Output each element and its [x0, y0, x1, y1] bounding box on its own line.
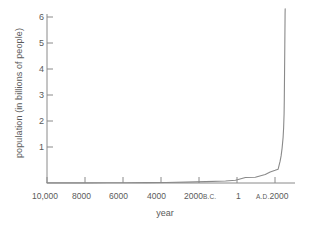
y-tick-label-6: 6: [28, 13, 44, 22]
era-label-bc: B.C.: [203, 193, 216, 200]
population-growth-chart: population (in billions of people) year …: [0, 0, 312, 234]
y-axis-label: population (in billions of people): [14, 8, 24, 178]
x-tick-label-6000bc: 6000: [109, 192, 128, 201]
x-tick-value-2000bc: 2000: [184, 191, 203, 201]
y-tick-label-4: 4: [28, 65, 44, 74]
x-tick-label-year1: 1: [236, 192, 241, 201]
population-curve-line: [47, 9, 285, 183]
x-axis-label: year: [47, 208, 283, 218]
x-tick-label-8000bc: 8000: [72, 192, 91, 201]
y-tick-label-1: 1: [28, 143, 44, 152]
x-tick-label-4000bc: 4000: [147, 192, 166, 201]
x-tick-label-ad2000: A.D.2000: [256, 192, 288, 201]
y-tick-label-5: 5: [28, 39, 44, 48]
era-label-ad: A.D.: [256, 193, 269, 200]
x-tick-label-2000bc: 2000B.C.: [184, 192, 216, 201]
y-tick-label-2: 2: [28, 117, 44, 126]
x-tick-label-10000bc: 10,000: [32, 192, 58, 201]
y-tick-label-3: 3: [28, 91, 44, 100]
y-axis: [47, 14, 53, 183]
x-tick-value-ad2000: 2000: [269, 191, 288, 201]
